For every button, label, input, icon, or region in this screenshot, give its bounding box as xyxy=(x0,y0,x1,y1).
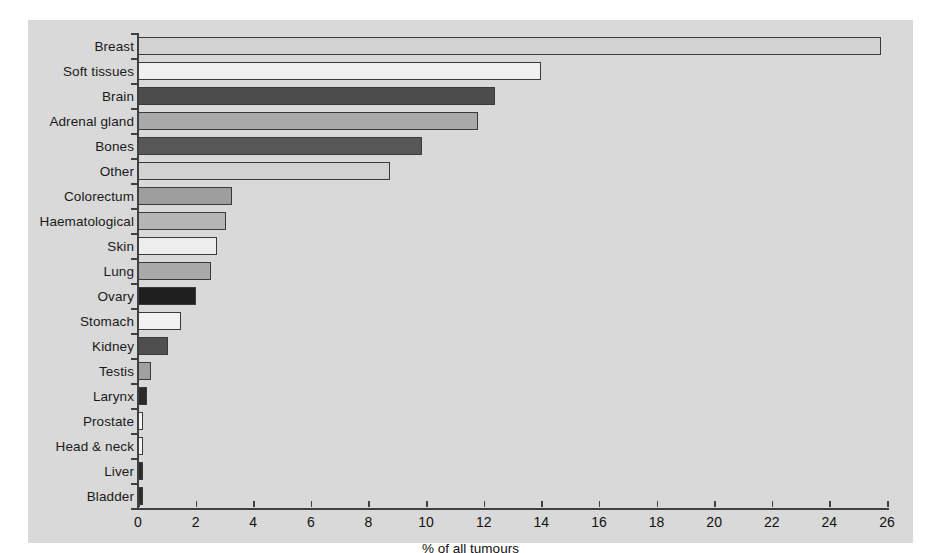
category-label-cell: Testis xyxy=(24,358,134,383)
x-axis-tick-label: 16 xyxy=(591,514,607,530)
x-axis-tick-label: 18 xyxy=(649,514,665,530)
y-axis-tick xyxy=(131,308,137,310)
category-label-cell: Breast xyxy=(24,33,134,58)
category-label: Prostate xyxy=(83,413,134,428)
y-axis-tick xyxy=(131,458,137,460)
x-axis-tick xyxy=(138,501,140,507)
category-label: Colorectum xyxy=(64,188,134,203)
bar-row: Prostate xyxy=(28,408,913,433)
x-axis-tick xyxy=(196,501,198,507)
category-label-cell: Other xyxy=(24,158,134,183)
y-axis-tick xyxy=(131,333,137,335)
chart-page: BreastSoft tissuesBrainAdrenal glandBone… xyxy=(0,0,930,553)
y-axis-tick xyxy=(131,83,137,85)
bar xyxy=(138,137,422,155)
category-label-cell: Head & neck xyxy=(24,433,134,458)
x-axis-tick xyxy=(829,501,831,507)
bar-row: Breast xyxy=(28,33,913,58)
bar-row: Stomach xyxy=(28,308,913,333)
category-label: Stomach xyxy=(80,313,134,328)
x-axis-tick-label: 14 xyxy=(534,514,550,530)
x-axis-tick-label: 22 xyxy=(764,514,780,530)
bar-row: Haematological xyxy=(28,208,913,233)
bar-row: Soft tissues xyxy=(28,58,913,83)
y-axis-tick xyxy=(131,133,137,135)
x-axis-tick-label: 20 xyxy=(706,514,722,530)
category-label: Breast xyxy=(94,38,134,53)
bar xyxy=(138,112,478,130)
category-label: Soft tissues xyxy=(63,63,134,78)
bar-row: Kidney xyxy=(28,333,913,358)
bar xyxy=(138,287,196,305)
x-axis-tick xyxy=(887,501,889,507)
y-axis-tick xyxy=(131,58,137,60)
bar xyxy=(138,262,211,280)
category-label: Ovary xyxy=(97,288,134,303)
y-axis-tick xyxy=(131,108,137,110)
category-label-cell: Kidney xyxy=(24,333,134,358)
x-axis-tick-label: 12 xyxy=(476,514,492,530)
bar-row: Ovary xyxy=(28,283,913,308)
x-axis-tick-label: 4 xyxy=(249,514,257,530)
category-label: Adrenal gland xyxy=(49,113,134,128)
x-axis-tick xyxy=(772,501,774,507)
category-label: Larynx xyxy=(93,388,134,403)
bar xyxy=(138,37,881,55)
bar-row: Adrenal gland xyxy=(28,108,913,133)
y-axis-tick xyxy=(131,33,137,35)
x-axis-title: % of all tumours xyxy=(28,541,913,553)
category-label-cell: Larynx xyxy=(24,383,134,408)
category-label-cell: Prostate xyxy=(24,408,134,433)
x-axis-tick xyxy=(657,501,659,507)
bar-row: Head & neck xyxy=(28,433,913,458)
y-axis-tick xyxy=(131,383,137,385)
x-axis-tick xyxy=(311,501,313,507)
category-label-cell: Ovary xyxy=(24,283,134,308)
category-label: Liver xyxy=(104,463,134,478)
category-label: Skin xyxy=(107,238,134,253)
category-label-cell: Bones xyxy=(24,133,134,158)
y-axis-line xyxy=(137,33,139,508)
category-label-cell: Bladder xyxy=(24,483,134,508)
x-axis-tick-label: 8 xyxy=(365,514,373,530)
x-axis-tick-label: 2 xyxy=(192,514,200,530)
category-label-cell: Adrenal gland xyxy=(24,108,134,133)
y-axis-tick xyxy=(131,208,137,210)
y-axis-tick xyxy=(131,158,137,160)
category-label-cell: Haematological xyxy=(24,208,134,233)
category-label-cell: Lung xyxy=(24,258,134,283)
x-axis-tick xyxy=(253,501,255,507)
x-axis-tick xyxy=(541,501,543,507)
category-label-cell: Brain xyxy=(24,83,134,108)
x-axis-tick xyxy=(599,501,601,507)
x-axis-tick-label: 10 xyxy=(418,514,434,530)
bar-row: Other xyxy=(28,158,913,183)
bar-row: Bones xyxy=(28,133,913,158)
chart-panel: BreastSoft tissuesBrainAdrenal glandBone… xyxy=(28,20,913,543)
bar xyxy=(138,62,541,80)
category-label-cell: Skin xyxy=(24,233,134,258)
y-axis-tick xyxy=(131,283,137,285)
bar xyxy=(138,237,217,255)
y-axis-tick xyxy=(131,408,137,410)
category-label-cell: Soft tissues xyxy=(24,58,134,83)
x-axis-tick xyxy=(426,501,428,507)
bar-row: Colorectum xyxy=(28,183,913,208)
y-axis-tick xyxy=(131,258,137,260)
bar xyxy=(138,187,232,205)
category-label: Testis xyxy=(99,363,134,378)
bar xyxy=(138,387,147,405)
y-axis-tick xyxy=(131,233,137,235)
y-axis-tick xyxy=(131,358,137,360)
category-label: Haematological xyxy=(40,213,134,228)
category-label-cell: Stomach xyxy=(24,308,134,333)
x-axis-tick xyxy=(714,501,716,507)
category-label-cell: Colorectum xyxy=(24,183,134,208)
y-axis-tick xyxy=(131,433,137,435)
x-axis-tick xyxy=(368,501,370,507)
bar-row: Skin xyxy=(28,233,913,258)
x-axis-tick xyxy=(484,501,486,507)
y-axis-tick xyxy=(131,183,137,185)
bar xyxy=(138,362,151,380)
bar xyxy=(138,162,390,180)
